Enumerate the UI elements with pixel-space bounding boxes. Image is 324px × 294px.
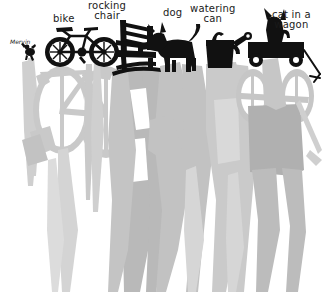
- label-watering-can: watering can: [190, 4, 236, 24]
- bike-silhouette: [45, 27, 119, 67]
- watering-can-silhouette: [206, 32, 252, 68]
- label-mervin: Mervin: [10, 38, 30, 45]
- silhouette-scene: Mervin bike rocking chair dog watering c…: [0, 0, 324, 294]
- label-dog: dog: [163, 8, 182, 18]
- mervin-silhouette: [21, 43, 36, 61]
- silhouette-layer: [0, 0, 324, 294]
- label-rocking-chair: rocking chair: [88, 1, 126, 21]
- label-cat-in-a-wagon: cat in a wagon: [272, 10, 311, 30]
- label-bike: bike: [53, 14, 75, 24]
